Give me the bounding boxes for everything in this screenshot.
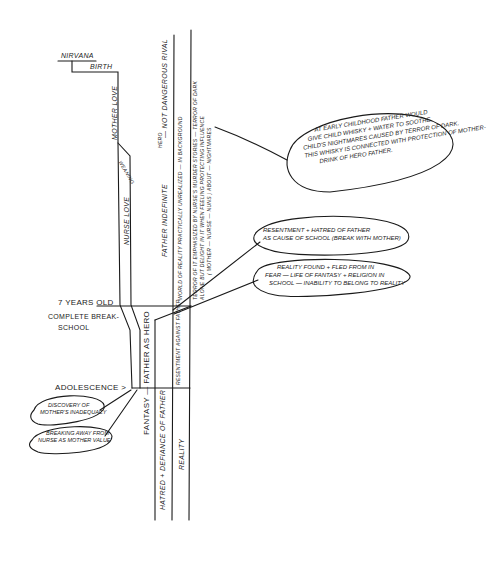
- label-terror-line3: ( Mother — Nurse — Nuns ) About — Nightm…: [207, 127, 212, 275]
- label-nirvana: Nirvana: [61, 52, 94, 59]
- pointer-reality: [174, 280, 258, 314]
- label-fantasy-father-hero: Fantasy — Father as Hero: [143, 311, 151, 435]
- label-world-of-reality: World of Reality Practically Unrealized …: [178, 116, 183, 300]
- diagram-canvas: [0, 0, 492, 565]
- father-column-line: [172, 35, 174, 520]
- label-mother-love: Mother Love: [111, 86, 118, 140]
- reality-column-line: [189, 30, 191, 520]
- label-father-indefinite: Father Indefinite: [161, 184, 168, 257]
- label-reality: Reality: [178, 439, 185, 470]
- bubble-reality-line: Reality found + fled from in: [265, 263, 405, 271]
- bubble-resentment: Resentment + hatred of father as cause o…: [263, 226, 401, 242]
- label-adolescence: Adolescence >: [55, 384, 126, 392]
- label-seven-years: 7 Years Old: [58, 299, 114, 307]
- bubble-resentment-line: Resentment + hatred of father: [263, 226, 401, 234]
- pointer-resentment: [173, 242, 260, 310]
- bubble-breaking-line: Breaking away from: [38, 430, 111, 437]
- bubble-resentment-line: as cause of school (break with mother): [263, 234, 401, 242]
- bubble-reality-found: Reality found + fled from in fear — life…: [265, 263, 405, 287]
- bubble-inadequacy-line: Mother's inadequacy: [40, 409, 106, 416]
- bubble-breaking-line: nurse as mother value: [38, 437, 111, 444]
- bubble-reality-line: school — inability to belong to reality: [265, 279, 405, 287]
- label-school: School: [58, 324, 89, 331]
- bubble-reality-line: fear — life of fantasy + religion in: [265, 271, 405, 279]
- label-complete-break: Complete Break-: [48, 313, 119, 320]
- label-terror-line2: Alone but Delight in it when Feeling Pro…: [200, 116, 205, 300]
- label-not-dangerous-rival: — Not Dangerous Rival: [161, 39, 168, 138]
- label-hatred-defiance: Hatred + Defiance of Father: [159, 390, 166, 510]
- bubble-inadequacy-line: Discovery of: [40, 402, 106, 409]
- label-resentment-against-father: Resentment against Father: [176, 299, 181, 385]
- label-nurse-love: Nurse Love: [123, 197, 130, 245]
- bubble-breaking-away: Breaking away from nurse as mother value: [38, 430, 111, 445]
- label-terror-line1: Terror of it Emphasized by Nurse's Murde…: [193, 81, 198, 300]
- bubble-mother-inadequacy: Discovery of Mother's inadequacy: [40, 402, 106, 417]
- label-birth: Birth: [90, 63, 112, 70]
- pointer-whisky: [215, 127, 287, 160]
